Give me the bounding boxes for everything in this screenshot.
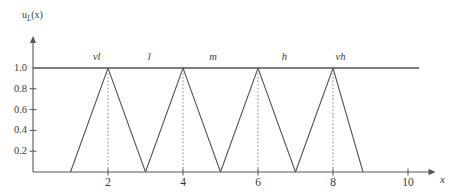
y-axis-label: uL(x): [22, 10, 43, 23]
linguistic-term-label-m: m: [198, 52, 228, 63]
y-tick-label: 0.4: [1, 125, 27, 136]
y-tick-label: 0.8: [1, 84, 27, 95]
x-axis-arrow: [429, 169, 436, 175]
linguistic-term-label-vl: vl: [82, 52, 112, 63]
linguistic-term-label-l: l: [134, 52, 164, 63]
x-tick-label: 4: [171, 177, 195, 189]
plot-area: [0, 0, 454, 196]
x-tick-label: 8: [321, 177, 345, 189]
linguistic-term-label-vh: vh: [326, 52, 356, 63]
x-tick-label: 6: [246, 177, 270, 189]
y-axis-label-arg: (x): [31, 9, 43, 20]
x-tick-label: 10: [396, 177, 420, 189]
membership-triangle-h: [296, 68, 364, 172]
x-axis-label: x: [440, 174, 445, 185]
membership-function-figure: uL(x) x 0.20.40.60.81.0246810vllmhvh: [0, 0, 454, 196]
y-axis-arrow: [30, 36, 36, 43]
x-tick-label: 2: [96, 177, 120, 189]
y-tick-label: 0.2: [1, 146, 27, 157]
linguistic-term-label-h: h: [269, 52, 299, 63]
y-tick-label: 0.6: [1, 105, 27, 116]
y-tick-label: 1.0: [1, 63, 27, 74]
